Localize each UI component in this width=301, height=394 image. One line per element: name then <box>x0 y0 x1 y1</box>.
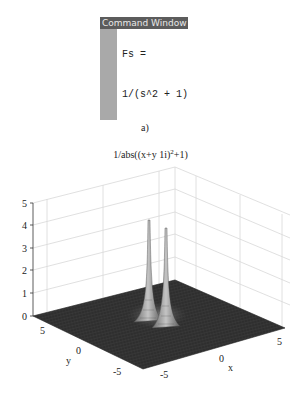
svg-text:0: 0 <box>76 345 81 356</box>
svg-text:5: 5 <box>277 336 282 347</box>
svg-text:0: 0 <box>22 311 27 322</box>
x-axis-label: x <box>228 362 233 373</box>
svg-text:-5: -5 <box>113 366 121 377</box>
svg-text:5: 5 <box>22 198 27 209</box>
svg-text:3: 3 <box>22 243 27 254</box>
svg-text:2: 2 <box>22 265 27 276</box>
svg-text:4: 4 <box>22 220 27 231</box>
z-tick-labels: 0 1 2 3 4 5 <box>22 198 27 322</box>
svg-text:0: 0 <box>219 353 224 364</box>
surface-plot: 0 1 2 3 4 5 5 0 -5 y <box>0 0 301 394</box>
y-axis-label: y <box>66 355 71 366</box>
svg-text:-5: -5 <box>160 369 168 380</box>
svg-text:5: 5 <box>40 325 45 336</box>
svg-text:1: 1 <box>22 288 27 299</box>
